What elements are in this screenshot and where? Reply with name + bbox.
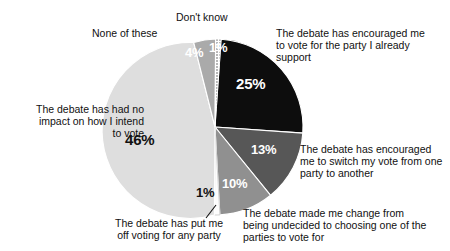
slice-label-dont-know: Don't know [176,11,296,23]
slice-label-put-off-voting: The debate has put me off voting for any… [96,217,242,241]
slice-value-dont-know: 1% [209,40,227,55]
slice-value-switch-vote: 13% [251,142,276,157]
slice-label-undecided-change: The debate made me change from being und… [243,207,443,244]
slice-value-put-off-voting: 1% [196,185,214,200]
pie-chart: Don't know None of these The debate has … [0,0,450,251]
slice-value-already-support: 25% [236,75,265,92]
slice-value-undecided-change: 10% [222,176,247,191]
slice-value-none-of-these: 4% [185,45,203,60]
slice-label-already-support: The debate has encouraged me to vote for… [276,27,446,64]
slice-label-none-of-these: None of these [92,27,202,39]
slice-label-switch-vote: The debate has encouraged me to switch m… [300,143,448,180]
slice-label-no-impact: The debate has had no impact on how I in… [8,103,144,140]
slice-value-no-impact: 46% [125,131,154,148]
